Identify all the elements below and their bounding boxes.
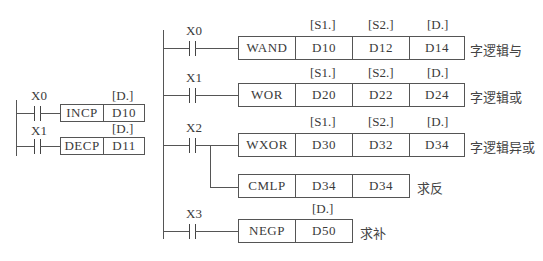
- rung-comment: 求反: [417, 178, 443, 197]
- rung-wire: [195, 95, 238, 96]
- contact-label: X3: [186, 207, 202, 221]
- operand-label: [D.]: [427, 115, 448, 129]
- contact-label: X2: [186, 121, 202, 135]
- rung-wire: [195, 231, 238, 232]
- instruction-box: WXOR: [238, 133, 296, 157]
- operand-box: D10: [295, 36, 353, 60]
- instruction-box: INCP: [60, 104, 104, 122]
- rung-wire: [163, 95, 189, 96]
- contact-no-icon: [189, 41, 190, 56]
- operand-label: [S1.]: [310, 66, 336, 80]
- branch-wire: [210, 187, 238, 188]
- operand-box: D34: [409, 133, 465, 157]
- operand-label: [S2.]: [368, 115, 394, 129]
- left-power-rail: [16, 100, 17, 156]
- operand-box: D32: [352, 133, 410, 157]
- operand-label: [D.]: [427, 66, 448, 80]
- operand-label: [S2.]: [368, 66, 394, 80]
- contact-label: X1: [186, 71, 202, 85]
- operand-label: [S1.]: [310, 115, 336, 129]
- operand-label: [S2.]: [368, 18, 394, 32]
- rung-wire: [163, 48, 189, 49]
- operand-label: [D.]: [427, 18, 448, 32]
- instruction-box: WOR: [238, 83, 296, 107]
- operand-box: D34: [295, 174, 353, 198]
- contact-no-icon: [189, 224, 190, 239]
- contact-label: X0: [31, 89, 47, 103]
- rung-comment: 字逻辑异或: [470, 137, 535, 156]
- operand-box: D30: [295, 133, 353, 157]
- rung-wire: [195, 145, 238, 146]
- operand-box: D11: [103, 137, 145, 155]
- rung-wire: [16, 146, 34, 147]
- rung-wire: [16, 113, 34, 114]
- rung-wire: [40, 146, 60, 147]
- rung-wire: [163, 231, 189, 232]
- branch-wire: [210, 145, 211, 187]
- operand-label: [D.]: [312, 202, 333, 216]
- rung-comment: 求补: [360, 223, 386, 242]
- rung-wire: [195, 48, 238, 49]
- operand-label: [S1.]: [310, 18, 336, 32]
- operand-box: D50: [295, 219, 353, 243]
- operand-box: D24: [409, 83, 465, 107]
- contact-no-icon: [189, 88, 190, 103]
- contact-label: X0: [186, 24, 202, 38]
- contact-no-icon: [34, 139, 35, 154]
- contact-label: X1: [31, 124, 47, 138]
- right-power-rail: [163, 30, 164, 239]
- operand-box: D20: [295, 83, 353, 107]
- rung-wire: [40, 113, 60, 114]
- rung-comment: 字逻辑与: [470, 40, 522, 59]
- contact-no-icon: [189, 138, 190, 153]
- operand-label: [D.]: [112, 122, 133, 136]
- instruction-box: WAND: [238, 36, 296, 60]
- instruction-box: CMLP: [238, 174, 296, 198]
- instruction-box: DECP: [60, 137, 104, 155]
- operand-box: D12: [352, 36, 410, 60]
- operand-box: D10: [103, 104, 145, 122]
- operand-box: D34: [352, 174, 410, 198]
- rung-comment: 字逻辑或: [470, 87, 522, 106]
- rung-wire: [163, 145, 189, 146]
- operand-box: D14: [409, 36, 465, 60]
- operand-label: [D.]: [112, 89, 133, 103]
- operand-box: D22: [352, 83, 410, 107]
- contact-no-icon: [34, 106, 35, 121]
- instruction-box: NEGP: [238, 219, 296, 243]
